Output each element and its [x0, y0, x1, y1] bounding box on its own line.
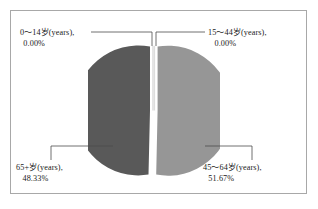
pie-label-age-45-64-category: 45～64岁(years),: [203, 163, 262, 174]
pie-label-age-45-64-percent: 51.67%: [203, 174, 262, 185]
pie-label-age-65-plus-percent: 48.33%: [16, 174, 63, 185]
pie-label-age-65-plus: 65+岁(years), 48.33%: [16, 163, 63, 184]
pie-chart-figure: 0～14岁(years), 0.00% 15～44岁(years), 0.00%…: [0, 0, 318, 209]
pie-label-age-0-14-category: 0～14岁(years),: [20, 28, 74, 39]
pie-slice-age-65-plus[interactable]: [88, 45, 150, 175]
pie-label-age-0-14: 0～14岁(years), 0.00%: [20, 28, 74, 49]
pie-graphic: [88, 44, 220, 177]
pie-label-age-65-plus-category: 65+岁(years),: [16, 163, 63, 174]
pie-label-age-15-44: 15～44岁(years), 0.00%: [208, 28, 267, 49]
pie-label-age-0-14-percent: 0.00%: [20, 39, 74, 50]
pie-slice-age-45-64[interactable]: [156, 46, 220, 176]
pie-svg: [88, 44, 220, 177]
pie-label-age-15-44-percent: 0.00%: [208, 39, 267, 50]
pie-label-age-15-44-category: 15～44岁(years),: [208, 28, 267, 39]
pie-label-age-45-64: 45～64岁(years), 51.67%: [203, 163, 262, 184]
